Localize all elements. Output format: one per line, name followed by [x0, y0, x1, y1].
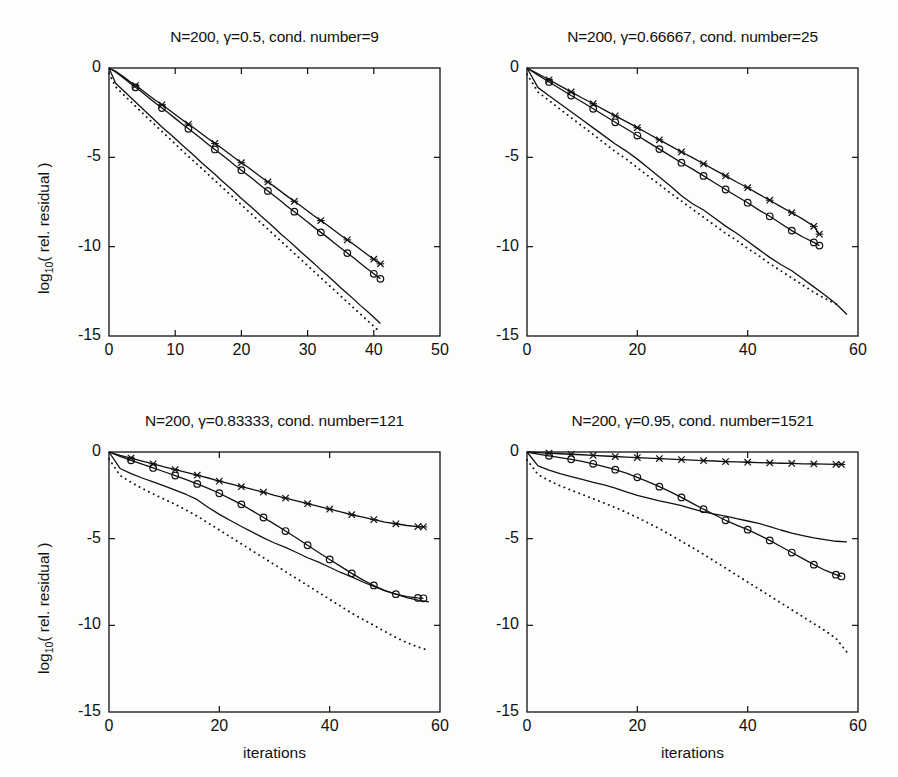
- y-tick-label: -15: [473, 702, 519, 720]
- series-solid: [527, 452, 847, 542]
- plot-area-4: [0, 0, 898, 777]
- y-tick-label: -10: [473, 615, 519, 633]
- y-tick-label: 0: [473, 442, 519, 460]
- x-tick-label: 60: [836, 717, 880, 735]
- figure-canvas: N=200, γ=0.5, cond. number=9010203040500…: [0, 0, 898, 777]
- x-tick-label: 20: [615, 717, 659, 735]
- series-o-marked: [527, 452, 841, 576]
- axes-box: [527, 452, 858, 712]
- plot-panel-4: N=200, γ=0.95, cond. number=152102040600…: [0, 0, 898, 777]
- y-tick-label: -5: [473, 529, 519, 547]
- x-tick-label: 40: [726, 717, 770, 735]
- x-axis-label: iterations: [527, 744, 858, 762]
